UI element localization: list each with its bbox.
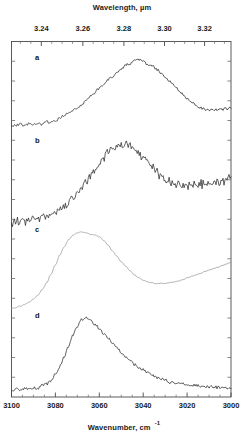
trace-label-b: b <box>35 136 40 145</box>
bottom-tick-label: 3000 <box>211 401 244 410</box>
spectrum-trace-b <box>12 141 232 227</box>
bottom-tick-label: 3020 <box>167 401 207 410</box>
spectrum-trace-a <box>12 59 232 126</box>
bottom-tick-label: 3040 <box>123 401 163 410</box>
plot-canvas <box>0 0 244 441</box>
spectrum-trace-c <box>12 232 232 308</box>
top-tick-label: 3.26 <box>63 24 103 33</box>
trace-label-d: d <box>35 311 40 320</box>
top-tick-label: 3.28 <box>104 24 144 33</box>
plot-frame <box>12 42 232 398</box>
bottom-tick-label: 3100 <box>0 401 32 410</box>
top-tick-label: 3.30 <box>144 24 184 33</box>
spectroscopy-figure: Wavelength, µm Wavenumber, cm-1 31003080… <box>0 0 244 441</box>
top-tick-label: 3.32 <box>185 24 225 33</box>
top-tick-label: 3.24 <box>21 24 61 33</box>
trace-label-a: a <box>35 53 39 62</box>
spectrum-trace-d <box>12 317 232 391</box>
bottom-tick-label: 3060 <box>79 401 119 410</box>
bottom-tick-label: 3080 <box>35 401 75 410</box>
trace-label-c: c <box>35 225 39 234</box>
